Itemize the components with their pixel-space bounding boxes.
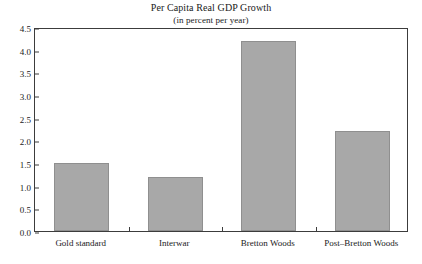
y-axis-tick-mark	[35, 74, 39, 75]
y-axis-tick-mark	[35, 187, 39, 188]
y-axis-tick-label: 3.5	[20, 69, 31, 79]
y-axis-tick-label: 0.0	[20, 228, 31, 238]
y-axis-tick-label: 0.5	[20, 205, 31, 215]
x-axis-tick-mark	[222, 227, 223, 231]
x-axis-tick-mark	[316, 227, 317, 231]
bar	[241, 41, 296, 231]
bar	[335, 131, 390, 231]
y-axis-tick-mark	[35, 51, 39, 52]
chart-title-block: Per Capita Real GDP Growth (in percent p…	[0, 2, 422, 26]
y-axis-tick-label: 3.0	[20, 92, 31, 102]
y-axis-tick-label: 4.0	[20, 47, 31, 57]
x-axis-tick-label: Post–Bretton Woods	[324, 238, 398, 248]
x-axis-tick-mark	[129, 227, 130, 231]
y-axis-tick-label: 2.0	[20, 137, 31, 147]
chart-figure: Per Capita Real GDP Growth (in percent p…	[0, 0, 422, 264]
bar	[148, 177, 203, 231]
y-axis-tick-label: 1.0	[20, 183, 31, 193]
y-axis-tick-label: 2.5	[20, 115, 31, 125]
x-axis-tick-label: Bretton Woods	[241, 238, 295, 248]
y-axis-tick-mark	[35, 97, 39, 98]
y-axis-tick-mark	[35, 233, 39, 234]
plot-inner: 0.00.51.01.52.02.53.03.54.04.5	[35, 29, 407, 231]
y-axis-tick-mark	[35, 210, 39, 211]
y-axis-tick-label: 4.5	[20, 24, 31, 34]
y-axis-tick-mark	[35, 29, 39, 30]
x-axis-tick-label: Interwar	[159, 238, 189, 248]
x-axis-tick-label: Gold standard	[55, 238, 106, 248]
y-axis-tick-mark	[35, 165, 39, 166]
y-axis-tick-label: 1.5	[20, 160, 31, 170]
page-title: Per Capita Real GDP Growth	[0, 2, 422, 14]
y-axis-tick-mark	[35, 119, 39, 120]
y-axis-tick-mark	[35, 142, 39, 143]
plot-area: 0.00.51.01.52.02.53.03.54.04.5	[34, 28, 408, 232]
bar	[54, 163, 109, 231]
chart-subtitle: (in percent per year)	[0, 14, 422, 26]
